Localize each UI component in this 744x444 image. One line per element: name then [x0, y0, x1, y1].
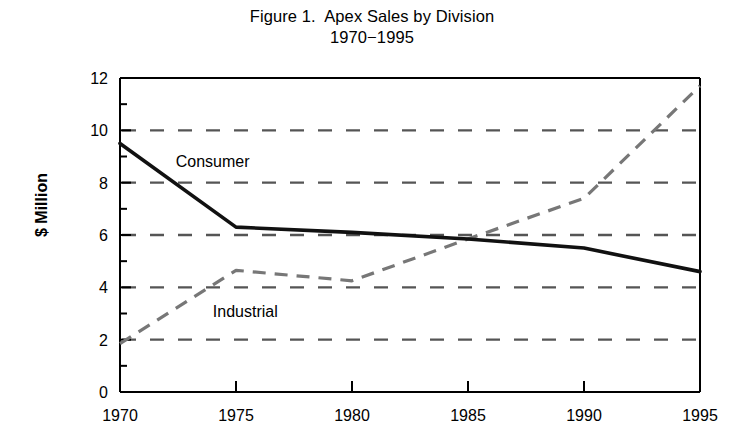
- y-axis-tick-labels: 024681012: [90, 70, 108, 401]
- svg-text:2: 2: [99, 332, 108, 349]
- svg-text:4: 4: [99, 279, 108, 296]
- svg-text:1970: 1970: [102, 407, 138, 424]
- svg-text:1995: 1995: [682, 407, 718, 424]
- svg-text:10: 10: [90, 122, 108, 139]
- x-axis-tick-labels: 197019751980198519901995: [102, 407, 718, 424]
- svg-text:1980: 1980: [334, 407, 370, 424]
- svg-text:0: 0: [99, 384, 108, 401]
- series-label-consumer: Consumer: [176, 153, 250, 170]
- figure-container: Figure 1. Apex Sales by Division 1970−19…: [0, 0, 744, 444]
- svg-text:1990: 1990: [566, 407, 602, 424]
- svg-text:1975: 1975: [218, 407, 254, 424]
- svg-text:6: 6: [99, 227, 108, 244]
- svg-text:1985: 1985: [450, 407, 486, 424]
- series-line-industrial: [120, 86, 700, 344]
- line-chart: 024681012 197019751980198519901995 Consu…: [0, 0, 744, 444]
- svg-text:8: 8: [99, 175, 108, 192]
- y-axis-major-ticks: [120, 130, 131, 339]
- x-axis-ticks: [120, 381, 700, 392]
- svg-text:12: 12: [90, 70, 108, 87]
- series-label-industrial: Industrial: [213, 303, 278, 320]
